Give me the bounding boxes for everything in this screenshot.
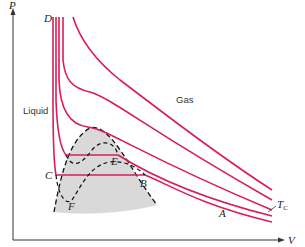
x-axis-label: V <box>288 235 295 246</box>
point-d-label: D <box>44 13 52 24</box>
point-e-label: E <box>111 156 118 167</box>
gas-region-label: Gas <box>176 95 193 105</box>
y-axis-label: P <box>9 0 16 11</box>
point-f-label: F <box>68 201 75 212</box>
point-a-label: A <box>219 208 226 219</box>
point-c-label: C <box>45 170 52 181</box>
x-axis-arrow <box>278 238 285 243</box>
point-b-label: B <box>140 178 147 189</box>
liquid-region-label: Liquid <box>23 106 48 116</box>
tc-sub: C <box>283 204 288 212</box>
critical-temperature-label: TC <box>277 199 288 212</box>
pv-diagram <box>0 0 305 247</box>
